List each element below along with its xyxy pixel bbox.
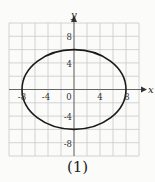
y-axis-label: y [70, 9, 77, 20]
y-tick-label: -4 [64, 112, 72, 122]
x-axis-label: x [148, 84, 154, 95]
y-tick-label: 4 [67, 59, 72, 69]
figure-caption: (1) [0, 158, 155, 176]
x-tick-label: 4 [97, 92, 102, 102]
y-tick-label: -8 [64, 139, 72, 149]
x-axis-arrow-icon [141, 87, 147, 93]
axes [9, 20, 142, 156]
ellipse-chart: -8 -4 0 4 8 8 4 -4 -8 x y [0, 0, 155, 182]
x-tick-label: -4 [42, 92, 50, 102]
x-tick-label: 8 [124, 92, 129, 102]
y-tick-label: 8 [67, 32, 72, 42]
x-tick-label: 0 [66, 92, 71, 102]
x-tick-label: -8 [18, 92, 26, 102]
